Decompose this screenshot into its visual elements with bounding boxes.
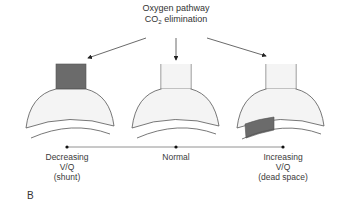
alveolus xyxy=(132,89,219,128)
header-label: Oxygen pathway CO2 elimination xyxy=(126,3,226,24)
alveolar-unit-shunt xyxy=(26,64,114,138)
panel-label: B xyxy=(27,190,34,201)
alveolar-unit-normal xyxy=(132,64,219,138)
blocked-airway xyxy=(56,64,86,89)
header-line-2: CO2 elimination xyxy=(126,14,226,25)
label-dead-space: Increasing V/Q (dead space) xyxy=(243,152,323,182)
label-shunt: Decreasing V/Q (shunt) xyxy=(27,152,107,182)
capillary xyxy=(137,128,216,138)
spectrum-point-dead-space xyxy=(281,145,284,148)
spectrum-point-normal xyxy=(174,145,177,148)
alveolar-unit-dead-space xyxy=(237,64,324,139)
arrow-to-shunt xyxy=(88,38,146,58)
header-line-1: Oxygen pathway xyxy=(126,3,226,14)
arrow-to-dead-space xyxy=(207,38,266,56)
spectrum-point-shunt xyxy=(65,145,68,148)
label-normal: Normal xyxy=(136,152,216,162)
capillary xyxy=(31,128,110,138)
alveolus xyxy=(26,89,114,128)
